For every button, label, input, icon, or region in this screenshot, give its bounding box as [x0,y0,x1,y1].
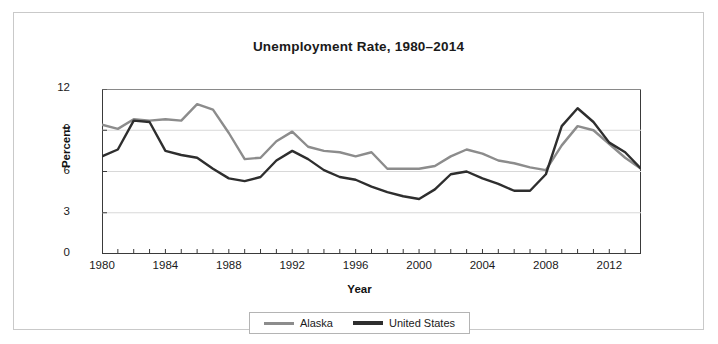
legend-box: Alaska United States [249,312,470,334]
legend-item-alaska: Alaska [264,317,333,329]
chart-svg [102,89,641,254]
legend-swatch-united-states [353,321,383,325]
x-tick-label: 2004 [452,259,512,271]
legend-swatch-alaska [264,322,294,325]
x-tick-label: 2012 [579,259,639,271]
x-tick-label: 1996 [326,259,386,271]
chart-legend: Alaska United States [14,312,705,334]
legend-label-alaska: Alaska [300,317,333,329]
y-axis-title: Percent [60,87,72,207]
legend-label-united-states: United States [389,317,455,329]
x-tick-label: 2000 [389,259,449,271]
legend-item-united-states: United States [353,317,455,329]
y-tick-label: 12 [30,81,70,93]
plot-area [102,89,641,254]
x-tick-label: 1980 [72,259,132,271]
y-tick-label: 0 [30,246,70,258]
x-tick-label: 2008 [516,259,576,271]
x-tick-label: 1988 [199,259,259,271]
series-line [102,104,641,170]
x-axis-title: Year [14,283,705,295]
y-tick-label: 6 [30,164,70,176]
x-tick-label: 1984 [135,259,195,271]
chart-title: Unemployment Rate, 1980–2014 [14,39,703,54]
y-tick-label: 3 [30,205,70,217]
chart-frame: Unemployment Rate, 1980–2014 Percent Yea… [13,12,704,330]
y-tick-label: 9 [30,122,70,134]
x-tick-label: 1992 [262,259,322,271]
